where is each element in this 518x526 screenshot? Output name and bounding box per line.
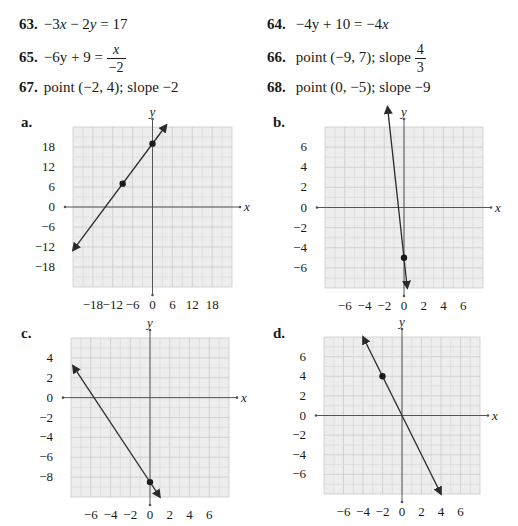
y-tick-label: −4 xyxy=(39,429,53,444)
y-tick-label: −6 xyxy=(41,219,55,234)
y-tick-label: 2 xyxy=(301,179,308,194)
data-point xyxy=(147,479,153,485)
data-point xyxy=(401,255,407,261)
y-tick-label: 0 xyxy=(49,199,56,214)
y-tick-label: −8 xyxy=(39,469,53,484)
y-tick-label: −4 xyxy=(292,447,306,462)
x-tick-label: 18 xyxy=(206,297,219,312)
y-tick-label: −6 xyxy=(292,466,306,481)
axis-end-dot xyxy=(149,504,152,507)
axis-end-dot xyxy=(315,414,318,417)
y-axis-label: y xyxy=(148,104,156,119)
x-tick-label: 2 xyxy=(167,507,174,522)
x-tick-label: 6 xyxy=(206,507,213,522)
y-tick-label: 6 xyxy=(300,349,307,364)
graph-c: xy−6−4−20246420−2−4−6−8 xyxy=(39,315,247,522)
x-tick-label: −4 xyxy=(358,298,372,313)
x-tick-label: −6 xyxy=(338,298,352,313)
y-tick-label: 0 xyxy=(301,200,308,215)
axis-end-dot xyxy=(62,396,65,399)
axis-end-dot xyxy=(490,206,493,209)
y-tick-label: −18 xyxy=(35,259,55,274)
x-tick-label: −2 xyxy=(377,298,391,313)
x-tick-label: 0 xyxy=(147,507,154,522)
x-tick-label: 2 xyxy=(418,504,425,519)
axis-end-dot xyxy=(401,501,404,504)
x-axis-label: x xyxy=(240,390,247,405)
y-tick-label: 2 xyxy=(300,388,307,403)
x-axis-label: x xyxy=(491,408,498,423)
x-axis-label: x xyxy=(494,200,501,215)
x-tick-label: −18 xyxy=(83,297,103,312)
x-tick-label: 0 xyxy=(401,298,408,313)
x-tick-label: 6 xyxy=(460,298,467,313)
axis-end-dot xyxy=(151,294,154,297)
graph-b: xy−6−4−202466420−2−4−6 xyxy=(293,104,501,313)
x-tick-label: −4 xyxy=(104,507,118,522)
y-tick-label: −2 xyxy=(292,427,306,442)
y-tick-label: −6 xyxy=(293,260,307,275)
x-tick-label: 4 xyxy=(186,507,193,522)
x-tick-label: 6 xyxy=(457,504,464,519)
x-tick-label: −2 xyxy=(123,507,137,522)
y-tick-label: 6 xyxy=(49,179,56,194)
y-tick-label: −2 xyxy=(293,220,307,235)
axis-end-dot xyxy=(239,206,242,209)
y-tick-label: 12 xyxy=(42,159,55,174)
y-tick-label: 0 xyxy=(47,390,54,405)
y-tick-label: 6 xyxy=(301,139,308,154)
y-tick-label: 4 xyxy=(47,350,54,365)
x-tick-label: 4 xyxy=(440,298,447,313)
y-tick-label: 4 xyxy=(301,159,308,174)
y-tick-label: 18 xyxy=(42,139,55,154)
axis-end-dot xyxy=(487,414,490,417)
x-tick-label: 12 xyxy=(186,297,199,312)
axis-end-dot xyxy=(403,295,406,298)
y-tick-label: 4 xyxy=(300,368,307,383)
x-axis-label: x xyxy=(243,199,250,214)
y-tick-label: −2 xyxy=(39,410,53,425)
x-tick-label: −2 xyxy=(376,504,390,519)
data-point xyxy=(149,140,155,146)
axis-end-dot xyxy=(316,206,319,209)
x-tick-label: 6 xyxy=(169,297,176,312)
y-axis-label: y xyxy=(399,104,407,119)
graph-d: xy−6−4−202466420−2−4−6 xyxy=(292,314,498,519)
x-tick-label: −6 xyxy=(337,504,351,519)
y-tick-label: −4 xyxy=(293,240,307,255)
graphs-canvas: xy−18−12−6061218181260−6−12−18 xy−6−4−20… xyxy=(0,0,518,526)
x-tick-label: −6 xyxy=(84,507,98,522)
y-tick-label: 0 xyxy=(300,408,307,423)
y-tick-label: 2 xyxy=(47,370,54,385)
axis-end-dot xyxy=(64,206,67,209)
x-tick-label: 0 xyxy=(149,297,156,312)
x-tick-label: −4 xyxy=(356,504,370,519)
x-tick-label: 4 xyxy=(438,504,445,519)
data-point xyxy=(119,180,125,186)
x-tick-label: −12 xyxy=(103,297,123,312)
graph-a: xy−18−12−6061218181260−6−12−18 xyxy=(35,104,250,312)
x-tick-label: 2 xyxy=(421,298,428,313)
y-axis-label: y xyxy=(397,314,405,329)
y-tick-label: −12 xyxy=(35,239,55,254)
data-point xyxy=(379,373,385,379)
y-axis-label: y xyxy=(145,315,153,330)
y-tick-label: −6 xyxy=(39,449,53,464)
x-tick-label: 0 xyxy=(399,504,406,519)
axis-end-dot xyxy=(236,396,239,399)
x-tick-label: −6 xyxy=(126,297,140,312)
